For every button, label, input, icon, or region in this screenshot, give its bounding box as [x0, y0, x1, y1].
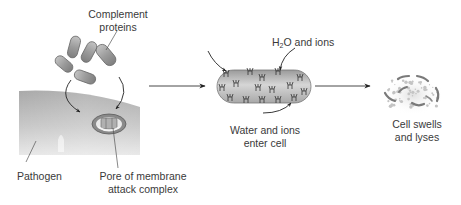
arrow-in-upper-left	[208, 51, 226, 71]
complement-proteins-label: Complement proteins	[78, 8, 158, 33]
lysed-cell	[383, 75, 443, 115]
debris-speck	[412, 95, 413, 96]
debris-speck	[421, 87, 423, 89]
debris-speck	[418, 81, 420, 83]
label-line: enter cell	[220, 137, 310, 150]
debris-speck	[432, 87, 433, 88]
water-ions-label: Water and ions enter cell	[220, 124, 310, 149]
debris-speck	[387, 100, 389, 102]
arrow-in-lower-right	[263, 103, 291, 113]
label-line: attack complex	[93, 183, 193, 196]
debris-speck	[387, 89, 390, 92]
pathogen-label: Pathogen	[17, 170, 62, 183]
debris-speck	[400, 100, 403, 103]
h2o-suffix: O and ions	[284, 36, 335, 48]
label-line: Pore of membrane	[93, 170, 193, 183]
debris-speck	[402, 80, 405, 83]
debris-speck	[423, 88, 426, 91]
label-line: Water and ions	[220, 124, 310, 137]
debris-speck	[394, 84, 395, 85]
h2o-prefix: H	[272, 36, 280, 48]
complement-protein	[94, 42, 119, 68]
debris-speck	[415, 93, 417, 95]
debris-speck	[411, 91, 414, 94]
cell-lyses-label: Cell swells and lyses	[382, 118, 452, 143]
debris-speck	[391, 81, 393, 83]
label-line: Complement	[78, 8, 158, 21]
pore-label: Pore of membrane attack complex	[93, 170, 193, 195]
debris-speck	[407, 93, 410, 96]
label-line: Cell swells	[382, 118, 452, 131]
mac-diagram	[0, 0, 461, 205]
debris-speck	[415, 89, 417, 91]
debris-speck	[429, 103, 431, 105]
debris-speck	[432, 94, 434, 96]
complement-protein	[73, 69, 97, 86]
label-line: proteins	[78, 21, 158, 34]
debris-speck	[411, 81, 413, 83]
debris-speck	[409, 105, 412, 108]
debris-speck	[392, 92, 394, 94]
bacterium	[217, 68, 311, 103]
debris-speck	[409, 89, 411, 91]
debris-speck	[435, 104, 438, 107]
complement-proteins	[53, 35, 118, 85]
debris-speck	[399, 98, 401, 100]
debris-speck	[393, 104, 396, 107]
complement-protein	[79, 40, 98, 64]
debris-speck	[417, 90, 420, 93]
mac-pore	[92, 114, 126, 134]
debris-speck	[426, 104, 429, 107]
debris-speck	[407, 98, 410, 101]
leader-line-complement	[106, 31, 117, 50]
debris-speck	[423, 97, 425, 99]
debris-speck	[429, 84, 430, 85]
debris-speck	[404, 81, 407, 84]
h2o-ions-label: H2O and ions	[272, 36, 334, 53]
complement-protein	[66, 35, 81, 59]
label-line: and lyses	[382, 131, 452, 144]
